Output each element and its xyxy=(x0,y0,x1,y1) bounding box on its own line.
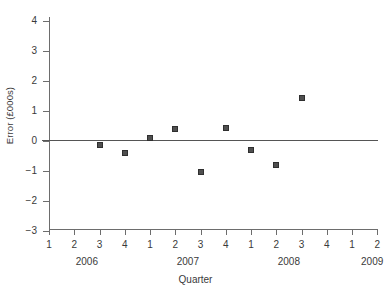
y-tick-label: 2 xyxy=(0,76,37,86)
x-tick-label: 3 xyxy=(191,239,211,250)
x-tick-label: 2 xyxy=(367,239,387,250)
y-tick-neg1 xyxy=(43,171,49,172)
x-tick xyxy=(302,229,303,235)
scatter-chart: Error (£000s) 43210−1−2−3 12341234123412… xyxy=(0,0,391,290)
x-tick-label: 3 xyxy=(292,239,312,250)
x-tick xyxy=(100,229,101,235)
data-point xyxy=(97,142,103,148)
y-tick-4 xyxy=(43,21,49,22)
x-tick xyxy=(74,229,75,235)
data-point xyxy=(172,126,178,132)
y-tick-label: 1 xyxy=(0,106,37,116)
year-label-2008: 2008 xyxy=(259,256,319,267)
y-tick-neg2 xyxy=(43,201,49,202)
data-point xyxy=(273,162,279,168)
x-tick-label: 1 xyxy=(39,239,59,250)
data-point xyxy=(198,169,204,175)
x-tick-label: 4 xyxy=(115,239,135,250)
x-tick xyxy=(175,229,176,235)
y-tick-label: −1 xyxy=(0,166,37,176)
y-tick-label: 4 xyxy=(0,16,37,26)
y-tick-label: −2 xyxy=(0,196,37,206)
y-tick-3 xyxy=(43,51,49,52)
x-tick-label: 4 xyxy=(317,239,337,250)
x-tick xyxy=(276,229,277,235)
x-axis-title: Quarter xyxy=(0,274,391,285)
y-tick-label: −3 xyxy=(0,226,37,236)
x-tick-label: 1 xyxy=(241,239,261,250)
data-point xyxy=(147,135,153,141)
y-tick-2 xyxy=(43,81,49,82)
x-tick xyxy=(150,229,151,235)
x-tick xyxy=(251,229,252,235)
y-tick-1 xyxy=(43,111,49,112)
x-tick xyxy=(125,229,126,235)
x-tick xyxy=(201,229,202,235)
zero-reference-line xyxy=(42,140,378,141)
y-tick-label: 3 xyxy=(0,46,37,56)
data-point xyxy=(122,150,128,156)
x-tick-label: 3 xyxy=(90,239,110,250)
year-label-2006: 2006 xyxy=(57,256,117,267)
data-point xyxy=(223,125,229,131)
data-point xyxy=(299,95,305,101)
year-label-2007: 2007 xyxy=(158,256,218,267)
x-tick xyxy=(352,229,353,235)
x-tick-label: 2 xyxy=(64,239,84,250)
x-tick xyxy=(49,229,50,235)
x-tick-label: 2 xyxy=(165,239,185,250)
x-tick xyxy=(327,229,328,235)
x-axis-line xyxy=(49,229,378,230)
x-tick-label: 1 xyxy=(140,239,160,250)
x-tick xyxy=(377,229,378,235)
x-tick xyxy=(226,229,227,235)
x-tick-label: 1 xyxy=(342,239,362,250)
x-tick-label: 2 xyxy=(266,239,286,250)
y-axis-line xyxy=(49,17,50,231)
x-tick-label: 4 xyxy=(216,239,236,250)
y-tick-label: 0 xyxy=(0,136,37,146)
year-label-2009: 2009 xyxy=(342,256,391,267)
data-point xyxy=(248,147,254,153)
